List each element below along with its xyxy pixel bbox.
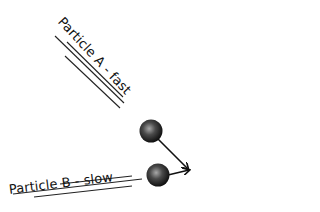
particle-a <box>140 120 163 143</box>
particle-b-velocity-arrow <box>168 170 189 175</box>
particle-b <box>147 164 170 187</box>
